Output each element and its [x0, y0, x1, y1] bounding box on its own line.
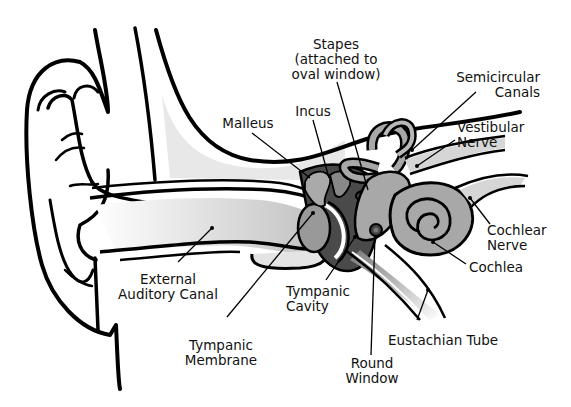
label-round-window-line1: Round: [342, 356, 402, 371]
label-tympanic-cavity-line1: Tympanic: [286, 284, 350, 299]
label-eustachian-tube: Eustachian Tube: [388, 333, 498, 348]
label-cochlear-nerve-line1: Cochlear: [487, 223, 547, 238]
label-round-window: Round Window: [342, 356, 402, 386]
label-incus: Incus: [288, 104, 338, 119]
label-tympanic-membrane-line2: Membrane: [178, 353, 264, 368]
label-round-window-line2: Window: [342, 371, 402, 386]
label-external-auditory-canal-line2: Auditory Canal: [113, 287, 223, 302]
label-stapes: Stapes (attached to oval window): [286, 37, 386, 82]
label-vestibular-nerve-line1: Vestibular: [457, 120, 524, 135]
label-external-auditory-canal-line1: External: [113, 272, 223, 287]
label-malleus-line1: Malleus: [213, 116, 283, 131]
label-eustachian-tube-line1: Eustachian Tube: [388, 333, 498, 348]
label-tympanic-cavity-line2: Cavity: [286, 299, 350, 314]
label-incus-line1: Incus: [288, 104, 338, 119]
label-semicircular-canals-line1: Semicircular: [440, 70, 540, 85]
label-malleus: Malleus: [213, 116, 283, 131]
label-semicircular-canals: Semicircular Canals: [440, 70, 540, 100]
label-stapes-line3: oval window): [286, 67, 386, 82]
label-cochlea: Cochlea: [469, 260, 523, 275]
label-stapes-line2: (attached to: [286, 52, 386, 67]
label-vestibular-nerve: Vestibular Nerve: [457, 120, 524, 150]
label-vestibular-nerve-line2: Nerve: [457, 135, 524, 150]
label-cochlear-nerve-line2: Nerve: [487, 238, 547, 253]
label-tympanic-membrane-line1: Tympanic: [178, 338, 264, 353]
label-semicircular-canals-line2: Canals: [440, 85, 540, 100]
label-cochlear-nerve: Cochlear Nerve: [487, 223, 547, 253]
label-tympanic-membrane: Tympanic Membrane: [178, 338, 264, 368]
label-cochlea-line1: Cochlea: [469, 260, 523, 275]
label-external-auditory-canal: External Auditory Canal: [113, 272, 223, 302]
label-stapes-line1: Stapes: [286, 37, 386, 52]
label-tympanic-cavity: Tympanic Cavity: [286, 284, 350, 314]
